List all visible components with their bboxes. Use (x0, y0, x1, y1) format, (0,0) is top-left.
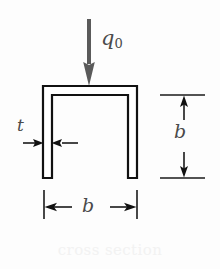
channel-section (43, 86, 137, 178)
channel-outline (43, 86, 137, 178)
load-label-q0: q0 (101, 28, 123, 50)
width-label-b: b (82, 196, 94, 215)
figure-caption: cross section (0, 241, 220, 259)
load-label-base: q (101, 26, 114, 50)
load-arrow-q0 (83, 19, 95, 86)
height-label-b: b (174, 122, 186, 141)
load-arrow-head (83, 62, 95, 86)
cross-section-figure: q0 t b b cross section (0, 0, 220, 269)
load-label-subscript: 0 (114, 36, 122, 51)
thickness-label-t: t (17, 117, 24, 134)
